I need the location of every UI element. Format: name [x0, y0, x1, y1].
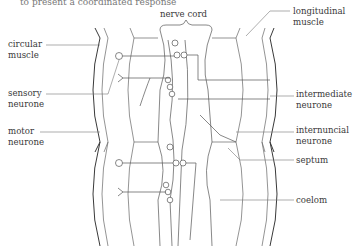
right-body-wall — [236, 28, 277, 246]
label-internuncial-neurone-2: neurone — [296, 136, 332, 146]
label-sensory-neurone-2: neurone — [8, 99, 44, 109]
label-nerve-cord: nerve cord — [160, 9, 207, 19]
earthworm-nerve-diagram: to present a coordinated response — [0, 0, 363, 252]
segment-2-neurones — [116, 144, 197, 240]
label-intermediate-neurone-1: intermediate — [296, 89, 352, 99]
label-circular-muscle-1: circular — [8, 39, 43, 49]
label-sensory-neurone-1: sensory — [8, 88, 42, 98]
label-circular-muscle-2: muscle — [8, 50, 39, 60]
label-longitudinal-muscle-2: muscle — [293, 17, 324, 27]
label-longitudinal-muscle-1: longitudinal — [293, 6, 346, 16]
cropped-caption-text: to present a coordinated response — [20, 0, 176, 7]
segment-1-neurones — [116, 40, 271, 142]
label-motor-neurone-1: motor — [8, 126, 35, 136]
labels: nerve cord longitudinal muscle circular … — [8, 6, 352, 205]
label-motor-neurone-2: neurone — [8, 137, 44, 147]
label-intermediate-neurone-2: neurone — [296, 100, 332, 110]
label-internuncial-neurone-1: internuncial — [296, 125, 349, 135]
sensory-cell-body — [116, 53, 123, 60]
label-coelom: coelom — [296, 195, 327, 205]
label-septum: septum — [296, 155, 328, 165]
left-body-wall — [93, 28, 134, 246]
